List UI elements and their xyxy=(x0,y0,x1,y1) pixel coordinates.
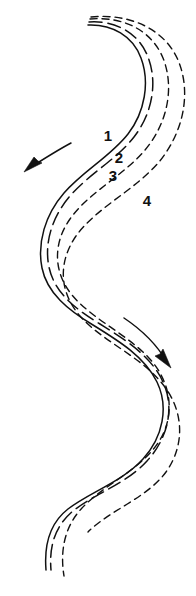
figure-background xyxy=(0,0,196,596)
stage-label-1: 1 xyxy=(104,127,112,144)
stage-label-4: 4 xyxy=(143,192,152,209)
meander-migration-figure: 1 2 3 4 xyxy=(0,0,196,596)
stage-label-3: 3 xyxy=(109,167,117,184)
stage-label-2: 2 xyxy=(115,149,123,166)
channel-migration-drawing: 1 2 3 4 xyxy=(0,0,196,596)
